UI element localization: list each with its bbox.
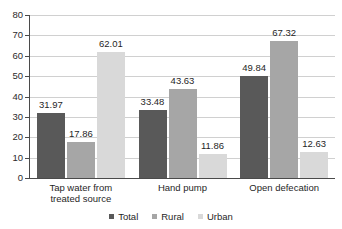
y-tick-label: 40 bbox=[3, 92, 23, 102]
y-tick-label: 50 bbox=[3, 71, 23, 81]
y-tick-label: 10 bbox=[3, 153, 23, 163]
x-category-label: Open defecation bbox=[225, 182, 342, 193]
bar bbox=[139, 110, 167, 178]
bar-value-label: 17.86 bbox=[61, 129, 101, 139]
x-category-label-line: treated source bbox=[22, 193, 140, 204]
bar-value-label: 12.63 bbox=[294, 139, 334, 149]
y-tick-label: 0 bbox=[3, 173, 23, 183]
x-category-label-line: Tap water from bbox=[22, 182, 140, 193]
legend-label: Rural bbox=[161, 212, 184, 222]
y-tick-label: 30 bbox=[3, 112, 23, 122]
bar bbox=[67, 142, 95, 178]
bar bbox=[199, 154, 227, 178]
y-axis-line bbox=[29, 15, 30, 179]
legend-swatch-icon bbox=[152, 214, 157, 219]
legend-label: Total bbox=[118, 212, 138, 222]
bar-value-label: 43.63 bbox=[163, 76, 203, 86]
legend-item-rural[interactable]: Rural bbox=[152, 212, 184, 222]
bar-value-label: 67.32 bbox=[264, 28, 304, 38]
legend-item-total[interactable]: Total bbox=[109, 212, 138, 222]
y-tick-label: 60 bbox=[3, 51, 23, 61]
bar bbox=[300, 152, 328, 178]
bar-chart: 80706050403020100 31.9717.8662.0133.4843… bbox=[0, 0, 342, 229]
bar-value-label: 31.97 bbox=[31, 100, 71, 110]
legend-label: Urban bbox=[207, 212, 233, 222]
x-axis-line bbox=[29, 178, 335, 179]
bar-value-label: 11.86 bbox=[193, 141, 233, 151]
y-tick-label: 70 bbox=[3, 30, 23, 40]
y-tick-label: 80 bbox=[3, 10, 23, 20]
bar-value-label: 49.84 bbox=[234, 63, 274, 73]
x-category-label-line: Hand pump bbox=[124, 182, 242, 193]
gridline bbox=[30, 15, 335, 16]
bar bbox=[169, 89, 197, 178]
bar bbox=[37, 113, 65, 178]
plot-area bbox=[30, 15, 335, 178]
bar-value-label: 62.01 bbox=[91, 39, 131, 49]
chart-legend: TotalRuralUrban bbox=[0, 212, 342, 222]
bar bbox=[270, 41, 298, 178]
x-category-label-line: Open defecation bbox=[225, 182, 342, 193]
y-tick-label: 20 bbox=[3, 132, 23, 142]
bar-value-label: 33.48 bbox=[133, 97, 173, 107]
bar bbox=[240, 76, 268, 178]
legend-item-urban[interactable]: Urban bbox=[198, 212, 233, 222]
x-category-label: Hand pump bbox=[124, 182, 242, 193]
x-category-label: Tap water fromtreated source bbox=[22, 182, 140, 204]
legend-swatch-icon bbox=[198, 214, 203, 219]
legend-swatch-icon bbox=[109, 214, 114, 219]
y-axis-tick-labels: 80706050403020100 bbox=[0, 0, 23, 229]
bar bbox=[97, 52, 125, 178]
